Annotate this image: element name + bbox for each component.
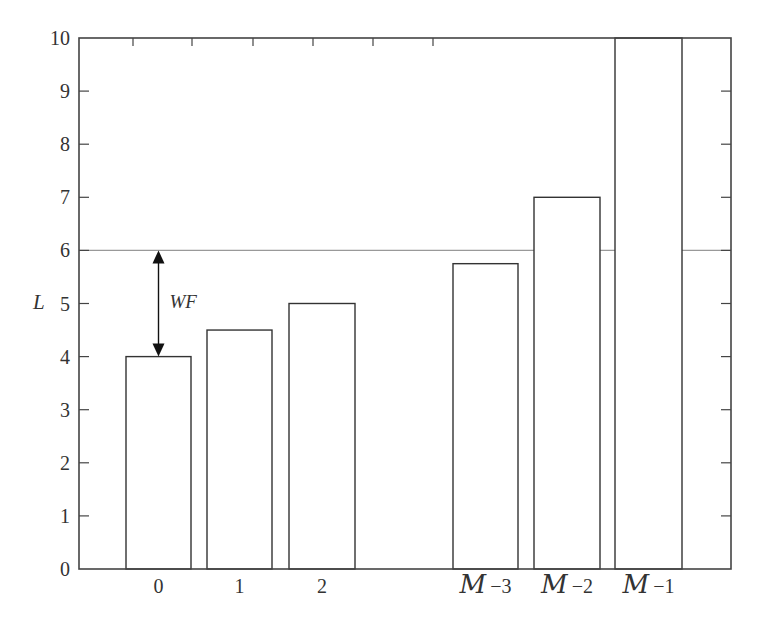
bars-layer bbox=[126, 38, 682, 569]
arrow-down-icon bbox=[153, 344, 165, 357]
x-category-label: M−3 bbox=[459, 569, 512, 599]
bar-m-1 bbox=[615, 38, 682, 569]
bar-m-3 bbox=[453, 264, 518, 569]
y-tick-label: 1 bbox=[60, 505, 70, 527]
y-tick-label: 9 bbox=[60, 80, 70, 102]
x-category-label: 0 bbox=[154, 575, 164, 597]
bar-chart: 012345678910 012M−3M−2M−1 WF L bbox=[0, 0, 768, 630]
x-category-label: 2 bbox=[317, 575, 327, 597]
arrow-up-icon bbox=[153, 250, 165, 263]
y-tick-label: 7 bbox=[60, 186, 70, 208]
y-tick-label: 0 bbox=[60, 558, 70, 580]
y-tick-label: 2 bbox=[60, 452, 70, 474]
x-category-label: M−1 bbox=[622, 569, 675, 599]
y-tick-label: 8 bbox=[60, 133, 70, 155]
x-axis-labels: 012M−3M−2M−1 bbox=[154, 569, 675, 599]
y-axis-label: L bbox=[32, 290, 45, 314]
annotation-layer: WF bbox=[153, 250, 198, 356]
y-tick-label: 10 bbox=[50, 27, 70, 49]
y-tick-label: 3 bbox=[60, 399, 70, 421]
y-tick-label: 4 bbox=[60, 346, 70, 368]
y-tick-label: 6 bbox=[60, 239, 70, 261]
bar-1 bbox=[207, 330, 272, 569]
y-tick-label: 5 bbox=[60, 293, 70, 315]
bar-0 bbox=[126, 357, 191, 569]
bar-2 bbox=[289, 304, 355, 570]
x-category-label: 1 bbox=[235, 575, 245, 597]
bar-m-2 bbox=[534, 197, 600, 569]
wf-label: WF bbox=[170, 291, 198, 312]
x-category-label: M−2 bbox=[540, 569, 593, 599]
